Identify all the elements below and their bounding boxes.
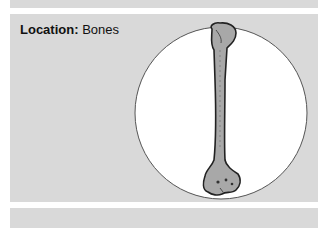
top-panel	[10, 0, 318, 8]
bottom-panel	[10, 208, 318, 228]
location-panel: Location: Bones	[10, 14, 318, 202]
bone-illustration	[10, 14, 318, 202]
